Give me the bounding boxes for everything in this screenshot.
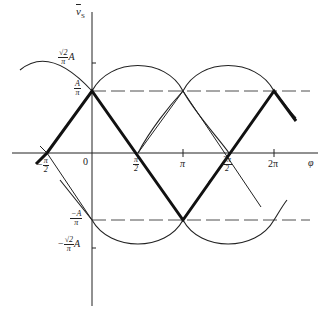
x-tick-neg-half-pi: −π2 [37,157,49,174]
x-tick-zero: 0 [83,157,88,167]
y-tick-neg-sqrt2-a: −√2πA [58,236,80,253]
y-tick-neg-a-over-pi: −Aπ [70,210,82,227]
upper-envelope-curve-3 [138,66,296,154]
x-tick-3half-pi: 3π2 [222,156,232,173]
x-tick-2pi: 2π [268,159,278,169]
x-tick-half-pi: π2 [133,156,139,173]
x-tick-pi: π [180,159,185,169]
y-tick-a-over-pi: Aπ [74,80,81,97]
y-axis-label: vS [76,6,85,20]
lower-envelope-curve-2 [183,200,287,244]
y-tick-sqrt2-a: √2πA [58,49,75,66]
upper-envelope-curve-1 [20,61,92,91]
x-axis-label: φ [308,158,314,168]
